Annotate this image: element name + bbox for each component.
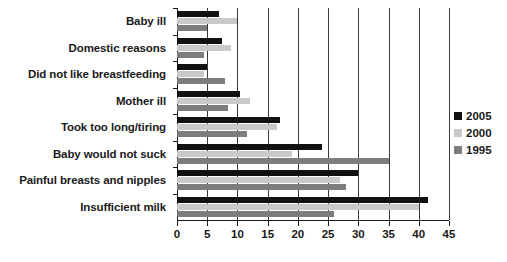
bar-group — [177, 114, 449, 141]
legend: 2005 2000 1995 — [454, 108, 504, 159]
bar-1995 — [177, 105, 228, 111]
x-tick-label: 5 — [204, 228, 210, 240]
y-tick — [173, 141, 177, 142]
gridline — [449, 8, 450, 220]
bar-chart: Baby ill Domestic reasons Did not like b… — [0, 0, 507, 262]
bar-row — [177, 170, 449, 176]
category-axis: Baby ill Domestic reasons Did not like b… — [0, 8, 172, 220]
plot-area — [177, 8, 449, 220]
bar-1995 — [177, 78, 225, 84]
bar-2005 — [177, 144, 322, 150]
bar-2000 — [177, 45, 231, 51]
y-tick — [173, 114, 177, 115]
bar-row — [177, 177, 449, 183]
x-tick — [298, 221, 299, 226]
x-tick-label: 40 — [412, 228, 425, 240]
bar-group — [177, 35, 449, 62]
category-label: Painful breasts and nipples — [0, 167, 172, 194]
bar-row — [177, 144, 449, 150]
bar-2000 — [177, 71, 204, 77]
bar-2000 — [177, 98, 250, 104]
y-tick — [173, 8, 177, 9]
bar-2000 — [177, 151, 292, 157]
bar-1995 — [177, 131, 247, 137]
bar-row — [177, 91, 449, 97]
x-tick-labels: 051015202530354045 — [177, 228, 449, 246]
x-tick — [389, 221, 390, 226]
bar-row — [177, 52, 449, 58]
bar-row — [177, 71, 449, 77]
legend-label: 2005 — [466, 110, 492, 122]
y-tick — [173, 88, 177, 89]
bar-row — [177, 184, 449, 190]
legend-item-1995: 1995 — [454, 142, 504, 157]
legend-swatch-icon — [454, 112, 462, 120]
legend-item-2005: 2005 — [454, 108, 504, 123]
bar-group — [177, 194, 449, 221]
bar-2000 — [177, 204, 419, 210]
category-label: Baby would not suck — [0, 141, 172, 168]
bar-group — [177, 61, 449, 88]
bar-2000 — [177, 124, 277, 130]
legend-swatch-icon — [454, 129, 462, 137]
bar-row — [177, 197, 449, 203]
x-tick-label: 35 — [382, 228, 395, 240]
bar-row — [177, 38, 449, 44]
bar-row — [177, 204, 449, 210]
y-tick — [173, 194, 177, 195]
y-tick — [173, 61, 177, 62]
bar-row — [177, 124, 449, 130]
bar-row — [177, 11, 449, 17]
bar-row — [177, 131, 449, 137]
x-tick — [237, 221, 238, 226]
category-label: Baby ill — [0, 8, 172, 35]
bar-row — [177, 117, 449, 123]
category-label: Took too long/tiring — [0, 114, 172, 141]
bar-row — [177, 18, 449, 24]
bar-groups — [177, 8, 449, 220]
bar-1995 — [177, 52, 204, 58]
bar-1995 — [177, 211, 334, 217]
bar-group — [177, 8, 449, 35]
x-tick — [268, 221, 269, 226]
bar-group — [177, 141, 449, 168]
bar-group — [177, 167, 449, 194]
bar-row — [177, 45, 449, 51]
bar-2000 — [177, 18, 237, 24]
bar-row — [177, 64, 449, 70]
bar-row — [177, 25, 449, 31]
bar-2005 — [177, 197, 428, 203]
bar-row — [177, 158, 449, 164]
x-tick-label: 15 — [261, 228, 274, 240]
bar-row — [177, 211, 449, 217]
x-tick — [207, 221, 208, 226]
bar-2005 — [177, 38, 222, 44]
y-tick — [173, 35, 177, 36]
bar-row — [177, 105, 449, 111]
x-tick — [419, 221, 420, 226]
x-tick-label: 45 — [443, 228, 456, 240]
bar-2005 — [177, 170, 358, 176]
legend-swatch-icon — [454, 146, 462, 154]
bar-group — [177, 88, 449, 115]
category-label: Insufficient milk — [0, 194, 172, 221]
x-tick-label: 10 — [231, 228, 244, 240]
bar-1995 — [177, 158, 389, 164]
bar-1995 — [177, 25, 207, 31]
x-tick-label: 20 — [291, 228, 304, 240]
y-tick — [173, 167, 177, 168]
x-tick-label: 25 — [322, 228, 335, 240]
bar-row — [177, 98, 449, 104]
bar-2005 — [177, 11, 219, 17]
bar-2000 — [177, 177, 340, 183]
x-tick-label: 0 — [174, 228, 180, 240]
x-tick — [358, 221, 359, 226]
legend-label: 1995 — [466, 144, 492, 156]
x-tick — [449, 221, 450, 226]
bar-2005 — [177, 117, 280, 123]
bar-2005 — [177, 64, 207, 70]
category-label: Did not like breastfeeding — [0, 61, 172, 88]
legend-item-2000: 2000 — [454, 125, 504, 140]
legend-label: 2000 — [466, 127, 492, 139]
x-tick — [177, 221, 178, 226]
